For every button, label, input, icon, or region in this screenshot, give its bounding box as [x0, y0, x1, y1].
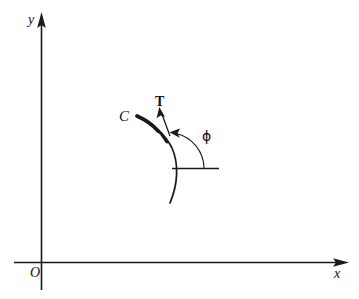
curve-path-thickest-segment — [137, 116, 158, 131]
curve-label: C — [119, 108, 130, 124]
angle-label: ϕ — [202, 128, 211, 144]
diagram-canvas: y x O C ϕ T — [0, 0, 359, 299]
angle-arc-path — [176, 134, 204, 169]
y-axis-label: y — [26, 12, 35, 27]
angle-arc-arrowhead — [170, 129, 181, 138]
axes-group: y x O — [14, 12, 349, 290]
origin-label: O — [30, 265, 40, 280]
x-axis-label: x — [333, 266, 341, 281]
tangent-vector-line — [162, 113, 171, 136]
tangent-vector-label: T — [155, 94, 165, 109]
curve-group: C — [119, 108, 177, 203]
figure-container: y x O C ϕ T — [0, 0, 359, 299]
